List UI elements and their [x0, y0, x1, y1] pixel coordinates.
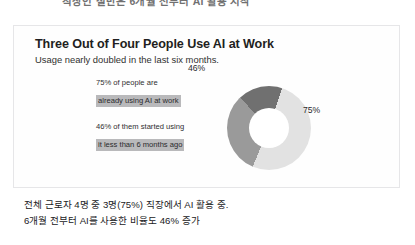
caption-line-2: 6개월 전부터 AI를 사용한 비율도 46% 증가 [24, 213, 354, 229]
callout-item: 46% of them started using it less than 6… [96, 122, 226, 151]
top-headline-text: 직장인 절반은 6개월 전부터 AI 활용 시작 [62, 0, 251, 8]
cropped-top-headline: 직장인 절반은 6개월 전부터 AI 활용 시작 [0, 0, 415, 13]
donut-chart [227, 86, 311, 170]
callout-plain-text: 46% of them started using [96, 122, 226, 133]
donut-label-46: 46% [188, 63, 205, 73]
callout-highlight-text: it less than 6 months ago [96, 139, 184, 151]
callout-item: 75% of people are already using AI at wo… [96, 78, 226, 107]
donut-center-hole [249, 108, 289, 148]
callout-plain-text: 75% of people are [96, 78, 226, 89]
korean-caption: 전체 근로자 4명 중 3명(75%) 직장에서 AI 활용 중. 6개월 전부… [24, 197, 354, 228]
callout-highlight-text: already using AI at work [96, 95, 181, 107]
card-title: Three Out of Four People Use AI at Work [35, 37, 274, 51]
donut-label-75: 75% [303, 105, 320, 115]
callout-list: 75% of people are already using AI at wo… [96, 78, 226, 166]
caption-line-1: 전체 근로자 4명 중 3명(75%) 직장에서 AI 활용 중. [24, 197, 354, 213]
infographic-card: Three Out of Four People Use AI at Work … [13, 25, 400, 188]
